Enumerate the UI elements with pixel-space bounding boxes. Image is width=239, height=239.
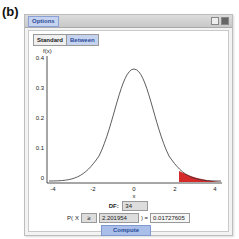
- x-value-input[interactable]: 2.201954: [99, 213, 139, 223]
- df-input[interactable]: 34: [122, 201, 148, 211]
- df-row: DF: 34: [29, 201, 228, 211]
- figure-label: (b): [2, 4, 19, 19]
- x-tick: -2: [90, 186, 96, 192]
- close-icon[interactable]: [221, 17, 229, 25]
- density-curve: [49, 69, 221, 181]
- title-bar[interactable]: Options: [25, 15, 232, 28]
- p-prefix: P(: [67, 215, 73, 221]
- y-tick: 0.2: [36, 115, 45, 121]
- x-label: X: [75, 215, 79, 221]
- panel: Standard Between f(x) 0.4 0.3 0.2 0.1 0 …: [28, 30, 229, 232]
- probability-result[interactable]: 0.01727605: [150, 213, 190, 223]
- x-axis-label: x: [133, 193, 136, 199]
- t-distribution-plot: f(x) 0.4 0.3 0.2 0.1 0 -4 -2 0 2 4 x: [29, 31, 228, 199]
- df-label: DF:: [109, 203, 119, 209]
- y-axis-label: f(x): [43, 48, 52, 54]
- probability-row: P( X ≥ 2.201954 ) = 0.01727605: [29, 213, 228, 223]
- x-tick: 4: [213, 186, 217, 192]
- compute-button[interactable]: Compute: [101, 225, 151, 236]
- y-tick: 0.4: [36, 55, 45, 61]
- y-tick: 0.3: [36, 85, 45, 91]
- x-tick: 2: [173, 186, 177, 192]
- y-tick: 0.1: [36, 145, 45, 151]
- x-tick: 0: [132, 186, 136, 192]
- x-tick: -4: [50, 186, 56, 192]
- window-title: Options: [28, 16, 59, 27]
- shaded-tail: [179, 171, 221, 182]
- operator-select[interactable]: ≥: [81, 213, 97, 223]
- y-tick: 0: [41, 175, 45, 181]
- p-equals: ) =: [141, 215, 148, 221]
- options-window: Options Standard Between f(x) 0.4 0.3 0.…: [24, 14, 233, 236]
- restore-icon[interactable]: [211, 17, 219, 25]
